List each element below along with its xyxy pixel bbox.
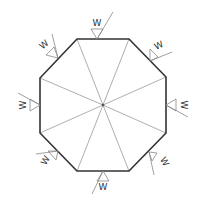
weld-label-top-right: W [153,39,165,52]
weld-label-bottom: W [99,182,108,192]
weld-label-left: W [18,100,28,109]
weld-label-bottom-left: W [39,154,52,167]
octagon-weld-diagram: W W W W W W W W [0,0,200,202]
weld-label-top-left: W [37,38,50,51]
weld-symbol-top-right [150,49,172,61]
weld-label-top: W [93,18,102,28]
weld-label-right: W [179,101,189,110]
center-point [102,104,105,107]
weld-label-bottom-right: W [158,155,171,168]
weld-symbol-bottom-right [149,152,157,175]
